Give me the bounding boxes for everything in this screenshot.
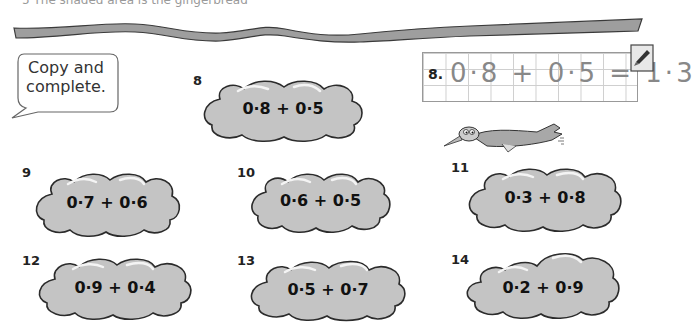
bird-illustration <box>442 118 567 158</box>
instruction-text: Copy and complete. <box>18 58 114 96</box>
question-expression: 0·6 + 0·5 <box>248 191 393 210</box>
question-expression: 0·3 + 0·8 <box>465 188 625 207</box>
example-label: 8. <box>428 66 443 82</box>
question-expression: 0·2 + 0·9 <box>463 278 623 297</box>
question-cloud: 0·8 + 0·5 <box>198 77 368 143</box>
question-cloud: 0·6 + 0·5 <box>248 170 393 234</box>
question-number: 9 <box>22 165 31 180</box>
question-expression: 0·7 + 0·6 <box>32 193 182 212</box>
question-cloud: 0·5 + 0·7 <box>247 258 409 322</box>
pencil-icon <box>630 44 654 72</box>
question-expression: 0·5 + 0·7 <box>247 280 409 299</box>
question-cloud: 0·2 + 0·9 <box>463 250 623 320</box>
question-cloud: 0·9 + 0·4 <box>35 255 195 321</box>
question-cloud: 0·7 + 0·6 <box>32 168 182 238</box>
question-cloud: 0·3 + 0·8 <box>465 165 625 233</box>
question-expression: 0·9 + 0·4 <box>35 278 195 297</box>
ribbon-banner <box>0 0 654 50</box>
example-equation: 0·8 + 0·5 = 1·3 <box>450 58 696 88</box>
question-expression: 0·8 + 0·5 <box>198 99 368 118</box>
